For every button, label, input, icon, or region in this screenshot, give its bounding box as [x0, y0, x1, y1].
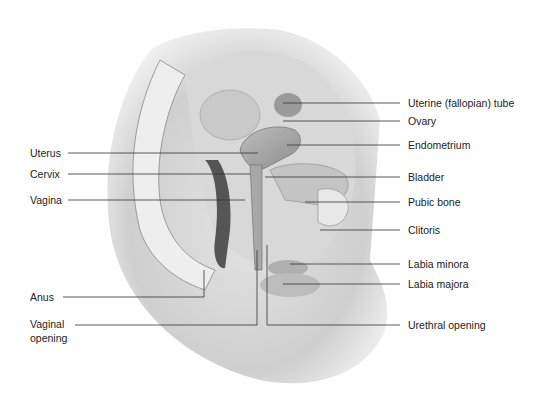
label-vagina: Vagina [30, 194, 62, 206]
label-anus: Anus [30, 291, 54, 303]
label-uterine-tube: Uterine (fallopian) tube [408, 97, 514, 109]
label-bladder: Bladder [408, 171, 444, 183]
label-urethral-opening: Urethral opening [408, 319, 486, 331]
label-clitoris: Clitoris [408, 224, 440, 236]
label-ovary: Ovary [408, 115, 436, 127]
anatomy-diagram: Uterus Cervix Vagina Anus Vaginal openin… [0, 0, 548, 406]
label-pubic-bone: Pubic bone [408, 196, 461, 208]
label-endometrium: Endometrium [408, 139, 470, 151]
label-vaginal-opening-line2: opening [30, 332, 67, 344]
label-uterus: Uterus [30, 147, 61, 159]
label-labia-majora: Labia majora [408, 278, 469, 290]
label-vaginal-opening-line1: Vaginal [30, 318, 64, 330]
anatomy-illustration [0, 0, 548, 406]
label-cervix: Cervix [30, 168, 60, 180]
label-labia-minora: Labia minora [408, 258, 469, 270]
